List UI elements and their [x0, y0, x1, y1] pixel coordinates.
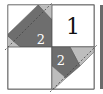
- piece-label: 2: [57, 53, 65, 68]
- bottom-right-unit: 2: [52, 47, 94, 89]
- quilt-block-diagram: 2 1 2: [0, 0, 103, 94]
- right-border: [100, 5, 103, 89]
- piece-label: 1: [66, 14, 80, 39]
- top-right-unit: 1: [52, 5, 94, 47]
- bottom-left-unit: [8, 47, 52, 89]
- piece-label: 2: [37, 32, 45, 47]
